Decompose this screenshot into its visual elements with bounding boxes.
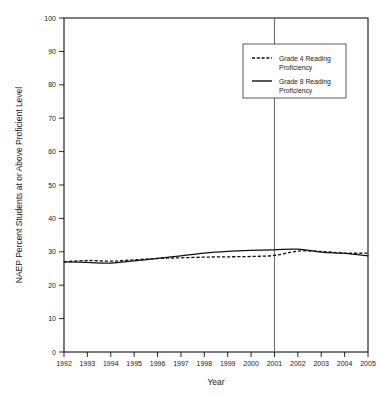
y-tick-label: 70	[48, 115, 56, 122]
legend-label-grade-4-line1: Grade 4 Reading	[279, 55, 331, 63]
x-tick-label: 2001	[267, 360, 283, 367]
y-tick-label: 20	[48, 282, 56, 289]
x-tick-label: 1999	[220, 360, 236, 367]
legend: Grade 4 Reading Proficiency Grade 8 Read…	[243, 44, 346, 98]
y-tick-label: 40	[48, 215, 56, 222]
y-tick-label: 50	[48, 182, 56, 189]
x-tick-label: 1992	[56, 360, 72, 367]
series-line-grade-8-reading-proficiency	[64, 249, 368, 263]
x-tick-label: 2003	[313, 360, 329, 367]
x-tick-label: 1995	[126, 360, 142, 367]
y-tick-label: 60	[48, 148, 56, 155]
y-tick-label: 90	[48, 48, 56, 55]
x-tick-label: 2005	[360, 360, 376, 367]
chart-container: 0102030405060708090100 19921993199419951…	[0, 0, 383, 397]
x-tick-label: 2000	[243, 360, 259, 367]
naep-reading-proficiency-line-chart: 0102030405060708090100 19921993199419951…	[0, 0, 383, 397]
x-tick-label: 1997	[173, 360, 189, 367]
x-tick-label: 1998	[197, 360, 213, 367]
x-axis-title: Year	[207, 377, 224, 387]
legend-label-grade-8-line1: Grade 8 Reading	[279, 78, 331, 86]
y-tick-label: 100	[44, 15, 56, 22]
y-axis-title: NAEP Percent Students at or Above Profic…	[14, 87, 24, 284]
y-tick-label: 80	[48, 81, 56, 88]
y-tick-label: 30	[48, 248, 56, 255]
y-tick-label: 10	[48, 315, 56, 322]
series-layer	[64, 249, 368, 263]
x-tick-label: 1996	[150, 360, 166, 367]
y-tick-label: 0	[52, 349, 56, 356]
x-tick-label: 1994	[103, 360, 119, 367]
legend-label-grade-8-line2: Proficiency	[279, 87, 313, 95]
x-axis: 1992199319941995199619971998199920002001…	[56, 352, 376, 367]
y-axis: 0102030405060708090100	[44, 15, 64, 356]
x-tick-label: 2004	[337, 360, 353, 367]
x-tick-label: 1993	[80, 360, 96, 367]
legend-label-grade-4-line2: Proficiency	[279, 64, 313, 72]
x-tick-label: 2002	[290, 360, 306, 367]
